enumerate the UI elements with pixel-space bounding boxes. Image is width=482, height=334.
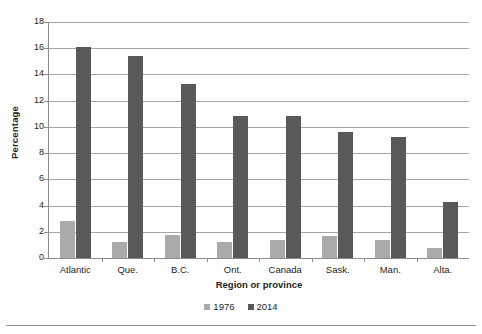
x-tick-label-sask: Sask.: [312, 263, 365, 277]
y-tick-mark-14: [44, 74, 49, 75]
x-tick-mark-2: [154, 258, 155, 262]
bar-canada-1976: [270, 240, 285, 258]
x-tick-label-bc: B.C.: [154, 263, 207, 277]
bar-chart-figure: Percentage 024681012141618 AtlanticQue.B…: [0, 0, 482, 334]
legend-item-2014[interactable]: 2014: [248, 302, 278, 312]
plot-area: [49, 22, 469, 258]
x-tick-mark-6: [364, 258, 365, 262]
x-tick-mark-1: [102, 258, 103, 262]
x-axis-tick-labels: AtlanticQue.B.C.Ont.CanadaSask.Man.Alta.: [49, 263, 469, 279]
bar-ont-2014: [233, 116, 248, 258]
x-axis-title: Region or province: [49, 279, 469, 290]
y-axis-tick-labels: 024681012141618: [22, 22, 44, 258]
y-tick-mark-8: [44, 153, 49, 154]
y-tick-label-6: 6: [26, 174, 44, 183]
bar-canada-2014: [286, 116, 301, 258]
bar-alta-1976: [427, 248, 442, 258]
y-tick-label-10: 10: [26, 122, 44, 131]
y-tick-mark-4: [44, 206, 49, 207]
y-tick-label-14: 14: [26, 69, 44, 78]
x-tick-mark-3: [207, 258, 208, 262]
x-tick-label-alta: Alta.: [417, 263, 470, 277]
y-tick-mark-10: [44, 127, 49, 128]
bar-atlantic-1976: [60, 221, 75, 258]
y-tick-mark-6: [44, 179, 49, 180]
y-tick-label-2: 2: [26, 227, 44, 236]
bar-man-1976: [375, 240, 390, 258]
y-tick-label-12: 12: [26, 96, 44, 105]
bar-alta-2014: [443, 202, 458, 258]
bar-que-1976: [112, 242, 127, 258]
y-axis-title-text: Percentage: [10, 106, 21, 159]
legend-swatch-2014: [248, 304, 254, 310]
x-tick-mark-7: [417, 258, 418, 262]
y-tick-label-4: 4: [26, 201, 44, 210]
y-tick-mark-12: [44, 101, 49, 102]
bar-atlantic-2014: [76, 47, 91, 258]
y-tick-label-16: 16: [26, 43, 44, 52]
bar-ont-1976: [217, 242, 232, 258]
bar-bc-2014: [181, 84, 196, 258]
y-tick-label-8: 8: [26, 148, 44, 157]
x-tick-label-atlantic: Atlantic: [49, 263, 102, 277]
bar-que-2014: [128, 56, 143, 258]
footer-divider: [6, 325, 476, 326]
bar-sask-1976: [322, 236, 337, 258]
bar-bc-1976: [165, 235, 180, 258]
x-tick-mark-5: [312, 258, 313, 262]
y-tick-mark-16: [44, 48, 49, 49]
x-tick-label-que: Que.: [102, 263, 155, 277]
legend-swatch-1976: [204, 304, 210, 310]
legend-label-1976: 1976: [213, 302, 234, 312]
x-tick-label-man: Man.: [364, 263, 417, 277]
y-tick-label-0: 0: [26, 253, 44, 262]
legend-label-2014: 2014: [257, 302, 278, 312]
bar-man-2014: [391, 137, 406, 258]
y-tick-mark-2: [44, 232, 49, 233]
legend-item-1976[interactable]: 1976: [204, 302, 234, 312]
bar-sask-2014: [338, 132, 353, 258]
x-tick-label-canada: Canada: [259, 263, 312, 277]
chart-legend: 19762014: [0, 302, 482, 312]
bar-series-container: [49, 22, 469, 258]
x-tick-label-ont: Ont.: [207, 263, 260, 277]
y-tick-mark-18: [44, 22, 49, 23]
x-tick-mark-4: [259, 258, 260, 262]
y-tick-label-18: 18: [26, 17, 44, 26]
